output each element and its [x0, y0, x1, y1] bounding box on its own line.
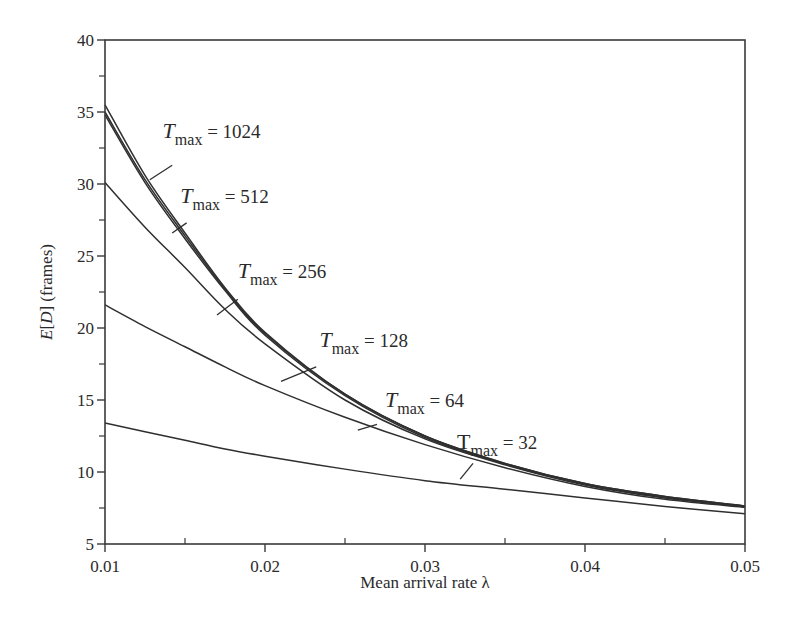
x-tick-label: 0.05 — [730, 557, 760, 576]
y-axis-title-var: D — [37, 311, 56, 325]
annotation-leader — [460, 463, 473, 479]
series-line-1024 — [105, 105, 745, 506]
series-line-512 — [105, 112, 745, 506]
annotation-leader — [217, 299, 238, 315]
y-tick-label: 25 — [77, 247, 94, 266]
series-label-256: Tmax = 256 — [238, 258, 327, 288]
y-tick-label: 30 — [77, 175, 94, 194]
series-line-128 — [105, 183, 745, 507]
y-tick-label: 20 — [77, 319, 94, 338]
y-axis-ticks: 510152025303540 — [77, 31, 105, 554]
plot-frame — [105, 40, 745, 544]
y-tick-label: 40 — [77, 31, 94, 50]
y-tick-label: 10 — [77, 463, 94, 482]
x-tick-label: 0.04 — [570, 557, 600, 576]
y-tick-label: 35 — [77, 103, 94, 122]
data-series-lines — [105, 105, 745, 514]
x-axis-title: Mean arrival rate λ — [360, 573, 490, 592]
series-line-256 — [105, 115, 745, 507]
y-axis-title-bracket-close: ] — [37, 302, 56, 312]
series-annotations: Tmax = 1024Tmax = 512Tmax = 256Tmax = 12… — [163, 118, 538, 459]
series-label-64: Tmax = 64 — [385, 387, 465, 417]
x-tick-label: 0.02 — [250, 557, 280, 576]
series-label-512: Tmax = 512 — [180, 183, 269, 213]
series-label-1024: Tmax = 1024 — [163, 118, 262, 148]
y-tick-label: 5 — [86, 535, 95, 554]
y-axis-title: E[D] (frames) — [37, 244, 56, 341]
annotation-leader — [150, 165, 172, 179]
y-axis-title-func: E — [37, 329, 56, 341]
x-tick-label: 0.01 — [90, 557, 120, 576]
line-chart: 0.010.020.030.040.05 510152025303540 Tma… — [0, 0, 799, 627]
series-label-128: Tmax = 128 — [319, 327, 408, 357]
y-axis-title-unit: (frames) — [37, 244, 56, 302]
y-tick-label: 15 — [77, 391, 94, 410]
